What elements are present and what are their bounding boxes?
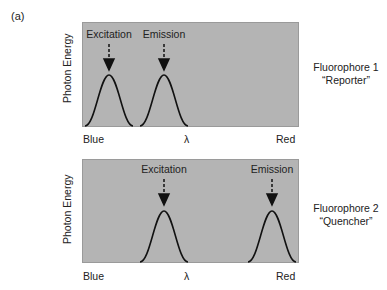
fluorophore-2-caption: Fluorophore 2 “Quencher” bbox=[306, 202, 386, 228]
spectrum-curves-quencher bbox=[83, 160, 300, 264]
x-axis-lambda-1: λ bbox=[184, 133, 189, 145]
x-axis-left-label-2: Blue bbox=[83, 270, 104, 282]
spectrum-panel-reporter: Excitation Emission bbox=[82, 22, 299, 127]
x-axis-right-label-2: Red bbox=[276, 270, 295, 282]
figure-label: (a) bbox=[11, 10, 24, 22]
fluorophore-1-caption: Fluorophore 1 “Reporter” bbox=[306, 61, 386, 87]
fluorophore-role: “Quencher” bbox=[306, 215, 386, 228]
fluorophore-role: “Reporter” bbox=[306, 74, 386, 87]
fluorophore-name: Fluorophore 1 bbox=[306, 61, 386, 74]
peak-label-emission: Emission bbox=[143, 28, 186, 40]
peak-label-excitation: Excitation bbox=[141, 163, 187, 175]
peak-label-emission: Emission bbox=[251, 163, 294, 175]
fluorophore-name: Fluorophore 2 bbox=[306, 202, 386, 215]
spectrum-panel-quencher: Excitation Emission bbox=[82, 159, 299, 263]
peak-label-excitation: Excitation bbox=[86, 28, 132, 40]
x-axis-left-label-1: Blue bbox=[83, 133, 104, 145]
x-axis-lambda-2: λ bbox=[184, 270, 189, 282]
x-axis-right-label-1: Red bbox=[276, 133, 295, 145]
y-axis-label-2: Photon Energy bbox=[61, 175, 73, 244]
y-axis-label-1: Photon Energy bbox=[61, 34, 73, 103]
